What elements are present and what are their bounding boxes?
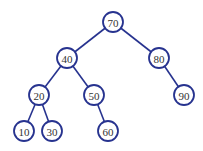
binary-tree-diagram: 704080205090103060 (0, 0, 203, 151)
tree-node-20: 20 (29, 85, 49, 105)
node-label: 80 (154, 53, 166, 65)
tree-node-50: 50 (84, 85, 104, 105)
tree-node-80: 80 (149, 48, 169, 68)
tree-node-90: 90 (174, 85, 194, 105)
tree-edges (24, 22, 184, 131)
tree-node-30: 30 (42, 121, 62, 141)
node-label: 40 (62, 53, 74, 65)
node-label: 10 (19, 126, 31, 138)
tree-nodes: 704080205090103060 (14, 12, 194, 141)
tree-node-40: 40 (57, 48, 77, 68)
node-label: 60 (103, 126, 115, 138)
node-label: 20 (34, 90, 46, 102)
tree-node-60: 60 (98, 121, 118, 141)
tree-node-70: 70 (103, 12, 123, 32)
node-label: 90 (179, 90, 191, 102)
node-label: 50 (89, 90, 101, 102)
node-label: 70 (108, 17, 120, 29)
tree-node-10: 10 (14, 121, 34, 141)
node-label: 30 (47, 126, 59, 138)
